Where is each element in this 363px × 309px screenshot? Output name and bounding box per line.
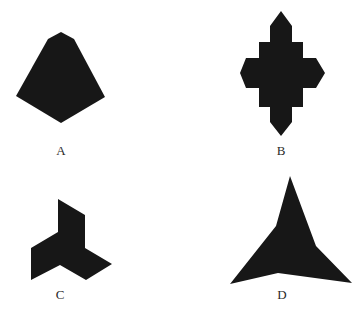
shape-d	[230, 176, 352, 284]
shape-b	[240, 11, 325, 136]
label-b: B	[277, 144, 286, 157]
shapes-canvas	[0, 0, 363, 309]
label-c: C	[56, 288, 65, 301]
shape-c	[31, 199, 112, 280]
shape-a	[16, 32, 105, 123]
label-a: A	[56, 144, 65, 157]
label-d: D	[277, 288, 286, 301]
